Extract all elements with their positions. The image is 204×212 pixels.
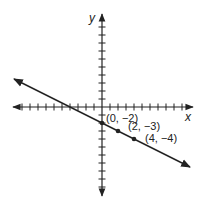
point-label-2: (4, −4) xyxy=(145,132,177,144)
y-axis-label: y xyxy=(88,11,96,25)
data-point xyxy=(116,129,121,134)
x-axis xyxy=(13,104,193,111)
coordinate-plane: x y (0, −2) (2, −3) (4, −4) xyxy=(0,0,204,212)
y-axis xyxy=(99,14,106,196)
point-label-1: (2, −3) xyxy=(128,120,160,132)
data-point xyxy=(132,137,137,142)
data-point xyxy=(100,121,105,126)
x-axis-label: x xyxy=(184,110,192,124)
